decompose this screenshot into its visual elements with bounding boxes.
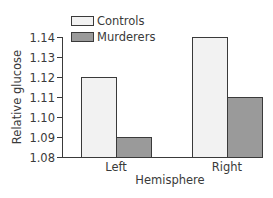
legend-label-controls: Controls [97, 14, 145, 28]
y-axis-title: Relative glucose [10, 50, 24, 144]
legend-label-murderers: Murderers [97, 30, 155, 44]
bars [82, 38, 263, 158]
y-tick-1.08: 1.08 [29, 151, 55, 165]
legend-swatch-controls [72, 17, 94, 26]
bar-right-controls [193, 38, 228, 158]
bar-left-controls [82, 78, 117, 158]
y-tick-1.11: 1.11 [29, 91, 55, 105]
y-tick-1.13: 1.13 [29, 51, 55, 65]
legend: Controls Murderers [72, 14, 156, 44]
bar-chart: Controls Murderers 1.14 1.13 1.12 1.11 1… [0, 0, 273, 198]
bar-right-murderers [228, 98, 263, 158]
x-label-right: Right [212, 160, 243, 174]
y-tick-1.14: 1.14 [29, 31, 55, 45]
y-tick-1.09: 1.09 [29, 131, 55, 145]
x-axis-title: Hemisphere [135, 173, 204, 187]
x-label-left: Left [105, 160, 127, 174]
y-tick-1.10: 1.10 [29, 111, 55, 125]
y-tick-1.12: 1.12 [29, 71, 55, 85]
y-axis: 1.14 1.13 1.12 1.11 1.10 1.09 1.08 Relat… [10, 31, 63, 165]
x-axis: Left Right Hemisphere [57, 158, 263, 188]
legend-swatch-murderers [72, 33, 94, 42]
bar-left-murderers [117, 138, 152, 158]
